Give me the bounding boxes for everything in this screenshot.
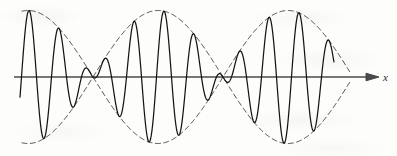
arrow-right-icon [366, 73, 379, 81]
x-axis-label: x [383, 72, 388, 83]
beats-waveform-figure: x Beats: amplitude-modulated wave with d… [0, 0, 397, 156]
upper-envelope-curve [22, 11, 350, 78]
axis-group [14, 73, 379, 81]
waveform-plot [0, 0, 397, 156]
